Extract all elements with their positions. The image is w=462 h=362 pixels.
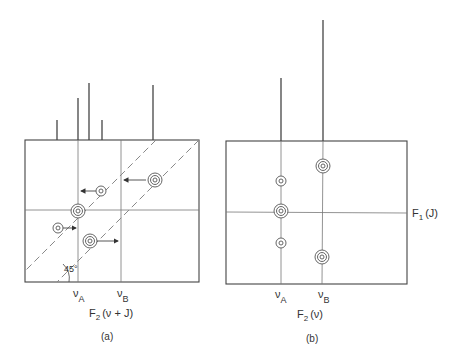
panel-b-x-axis-label: F2(ν) [297,308,323,323]
angle-label: 45° [64,264,78,274]
panel-a-peak-small [96,186,106,196]
panel-b-peak-large [316,159,330,173]
panel-b-peak-small [276,176,286,186]
panel-a-peak-large [71,204,85,218]
panel-a-peak-small [53,223,63,233]
panel-b-peak-large [315,250,329,264]
tick-nu-a: νA [73,287,85,304]
panel-a: 45° νA νB F2(ν + J) (a) [25,83,199,342]
panel-a-peak-large [83,234,97,248]
panel-b-y-axis-label: F1(J) [412,207,438,222]
panel-b-caption: (b) [306,333,318,344]
panel-a-diagonal-a [25,140,156,271]
nmr-2d-diagram: 45° νA νB F2(ν + J) (a) [0,0,462,362]
tick-nu-b: νB [318,288,330,305]
panel-b-zero-line [226,212,407,213]
panel-b-peak-large [274,204,288,218]
panel-b-projection-spectrum [281,20,323,141]
panel-a-frame [25,140,199,282]
panel-a-projection-spectrum [57,83,153,140]
tick-nu-b: νB [117,287,129,304]
panel-a-x-axis-label: F2(ν + J) [89,307,133,322]
panel-b-peak-small [276,238,286,248]
panel-b: νA νB F2(ν) F1(J) (b) [226,20,438,344]
tick-nu-a: νA [275,288,287,305]
panel-a-caption: (a) [101,331,113,342]
panel-a-peak-large [148,173,162,187]
